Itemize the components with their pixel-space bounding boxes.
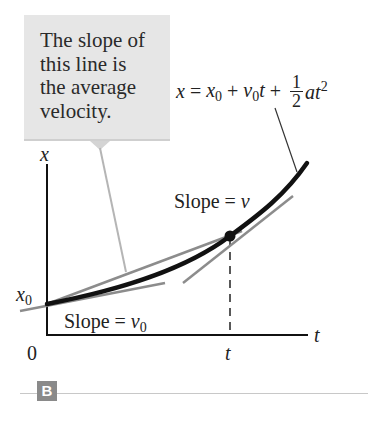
eq-x0: x0 <box>206 79 222 105</box>
y-axis-label: x <box>40 143 49 166</box>
eq-v0t: v0t <box>243 79 264 105</box>
origin-label: 0 <box>27 342 37 365</box>
equation-leader-line <box>275 108 297 172</box>
x0-label: x0 <box>16 283 32 309</box>
x-axis-label: t <box>314 324 320 347</box>
kinematic-equation: x = x0 + v0t + 12 at2 <box>176 73 328 110</box>
position-time-graph <box>0 0 383 429</box>
eq-x: x <box>176 80 185 103</box>
position-curve <box>47 163 307 304</box>
eq-equals: = <box>185 80 206 103</box>
eq-plus-2: + <box>265 80 286 103</box>
eq-at2: at2 <box>305 79 328 104</box>
panel-badge: B <box>37 381 57 401</box>
eq-fraction: 12 <box>290 73 303 110</box>
slope-v0-annotation: Slope = v0 <box>64 310 147 336</box>
point-at-t <box>225 231 236 242</box>
t-tick-label: t <box>225 342 231 365</box>
eq-plus-1: + <box>222 80 243 103</box>
panel-divider <box>20 393 368 394</box>
slope-v-annotation: Slope = v <box>174 190 250 213</box>
callout-leader-line <box>100 148 126 272</box>
secant-line <box>47 231 242 304</box>
